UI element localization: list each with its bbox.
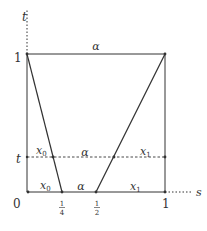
label-mid-x1: x1 (140, 145, 151, 159)
point-top-right (164, 53, 167, 56)
label-top-alpha: α (92, 40, 100, 53)
point-t-right-diag (113, 156, 116, 159)
homotopy-diagram: t s 1 t 0 1 1 4 1 2 α x0 α x1 x0 α x1 (0, 0, 207, 231)
svg-text:2: 2 (95, 209, 99, 217)
t-axis-label: t (22, 10, 27, 24)
s-tick-quarter: 1 4 (59, 200, 65, 217)
point-t-left (26, 156, 28, 158)
svg-text:1: 1 (95, 200, 99, 208)
point-t-right (164, 156, 167, 159)
svg-text:1: 1 (60, 200, 64, 208)
label-mid-x0: x0 (36, 144, 47, 158)
label-bottom-alpha: α (77, 180, 85, 193)
right-diagonal (96, 54, 165, 192)
left-diagonal (27, 54, 62, 192)
s-tick-one: 1 (162, 197, 170, 211)
point-quarter (61, 191, 64, 194)
svg-text:4: 4 (60, 209, 65, 217)
s-axis-label: s (196, 186, 202, 199)
label-bottom-x0: x0 (40, 179, 51, 193)
point-t-left-diag (52, 156, 55, 159)
label-mid-alpha: α (81, 146, 89, 159)
point-origin (27, 191, 30, 194)
point-bottom-right (164, 191, 167, 194)
label-bottom-x1: x1 (130, 180, 141, 194)
t-tick-mid: t (16, 152, 21, 166)
s-tick-half: 1 2 (94, 200, 100, 217)
point-top-left (26, 53, 29, 56)
t-tick-one: 1 (14, 51, 22, 65)
origin-label: 0 (13, 197, 21, 211)
point-half (95, 191, 98, 194)
